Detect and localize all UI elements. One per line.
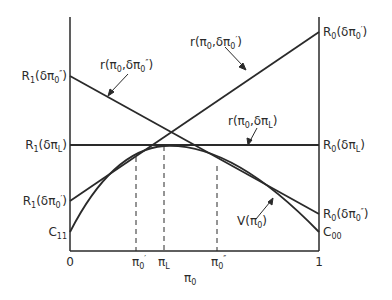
x-marker-piL: πL (158, 255, 170, 271)
label-r-dpiL: r(π0,δπL) (228, 114, 277, 130)
label-R0-dpi0-dprime: R0(δπ0″) (323, 207, 368, 223)
label-C00: C00 (323, 225, 342, 241)
x-marker-pi0-dprime: π0″ (211, 255, 226, 271)
label-R0-dpi0-prime: R0(δπ0′) (323, 25, 367, 41)
label-R0-dpiL: R0(δπL) (323, 138, 365, 154)
label-C11: C11 (48, 225, 67, 241)
x-axis-title: π0 (184, 271, 196, 287)
arrow-icon (108, 47, 273, 219)
label-R1-dpiL: R1(δπL) (25, 138, 67, 154)
label-V: V(π0) (237, 214, 267, 230)
label-r-dpi0-dprime: r(π0,δπ0″) (100, 58, 153, 74)
x-origin-label: 0 (66, 255, 74, 269)
label-r-dpi0-prime: r(π0,δπ0′) (190, 35, 242, 51)
label-R1-dpi0-prime: R1(δπ0′) (23, 194, 67, 210)
x-marker-pi0-prime: π0′ (132, 255, 146, 271)
x-end-label: 1 (315, 255, 323, 269)
bayes-risk-diagram: r(π0,δπ0″) r(π0,δπ0′) r(π0,δπL) V(π0) R1… (0, 0, 392, 300)
label-R1-dpi0-dprime: R1(δπ0″) (22, 69, 67, 85)
curve-V (70, 146, 319, 232)
